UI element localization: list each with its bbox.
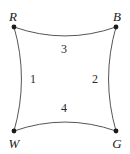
geometry-figure: R B W G 1 2 3 4 (0, 0, 130, 154)
vertex-label-g: G (112, 137, 121, 150)
vertex-dot-w (12, 129, 17, 134)
vertex-label-w: W (9, 137, 20, 150)
vertex-dot-b (114, 25, 119, 30)
edge-label-2: 2 (92, 73, 98, 85)
edge-arc-right (109, 27, 117, 131)
vertex-dot-r (12, 25, 17, 30)
curvilinear-quadrilateral-svg (0, 0, 130, 154)
edge-label-1: 1 (30, 73, 36, 85)
edge-arc-bottom (14, 122, 116, 131)
edge-label-4: 4 (61, 102, 67, 114)
vertex-label-b: B (113, 10, 121, 23)
vertex-label-r: R (9, 10, 17, 23)
vertex-dot-g (114, 129, 119, 134)
edge-label-3: 3 (61, 43, 67, 55)
edge-arc-top (14, 27, 116, 36)
edge-arc-left (14, 27, 22, 131)
